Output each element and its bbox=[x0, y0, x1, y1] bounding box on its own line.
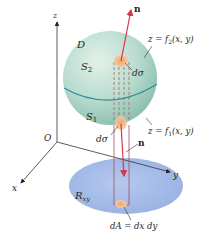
origin-label: O bbox=[44, 133, 52, 143]
leader-lower-n bbox=[126, 144, 138, 152]
area-element-patch bbox=[115, 200, 127, 208]
lower-surface-equation: z = f1(x, y) bbox=[147, 126, 194, 137]
leader-f1 bbox=[146, 118, 152, 125]
area-element-label: dA = dx dy bbox=[110, 221, 157, 231]
upper-normal-label: n bbox=[134, 4, 141, 14]
y-axis-label: y bbox=[172, 170, 179, 180]
diagram-canvas: z O x y D S2 S1 dσ dσ n n z = f2(x, y) z… bbox=[0, 0, 212, 244]
z-axis-label: z bbox=[52, 11, 58, 20]
solid-label-d: D bbox=[76, 39, 85, 50]
leader-lower-dsigma bbox=[111, 126, 118, 135]
flux-divergence-diagram: z O x y D S2 S1 dσ dσ n n z = f2(x, y) z… bbox=[0, 0, 212, 244]
lower-normal-label: n bbox=[138, 138, 145, 148]
upper-surface-equation: z = f2(x, y) bbox=[147, 34, 194, 45]
lower-patch-label: dσ bbox=[96, 134, 109, 144]
x-axis-label: x bbox=[12, 183, 17, 193]
upper-patch-label: dσ bbox=[132, 68, 145, 78]
x-axis bbox=[21, 142, 57, 183]
